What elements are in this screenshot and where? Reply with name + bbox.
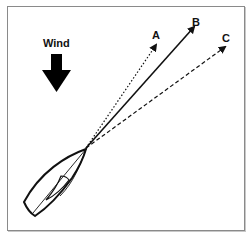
course-c-label: C xyxy=(222,32,230,44)
wind-arrow-icon xyxy=(42,54,71,92)
course-a-label: A xyxy=(152,29,160,41)
course-c-line xyxy=(86,47,225,148)
sailboat-icon xyxy=(24,149,86,216)
course-a-line xyxy=(86,45,156,148)
sailing-diagram xyxy=(0,0,251,237)
course-b-label: B xyxy=(192,16,200,28)
wind-label: Wind xyxy=(43,37,70,49)
course-b-line xyxy=(86,27,194,148)
